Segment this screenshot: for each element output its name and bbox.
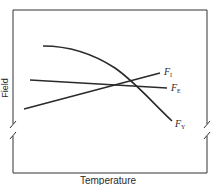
chart: FI FE FY Temperature Field bbox=[0, 0, 216, 185]
series-fe-label: FE bbox=[170, 82, 181, 94]
series-fi-line bbox=[24, 73, 160, 109]
x-axis-title: Temperature bbox=[80, 175, 137, 185]
series-fy-label: FY bbox=[174, 118, 186, 130]
series-fe-line bbox=[30, 80, 167, 88]
y-axis-title: Field bbox=[0, 78, 10, 98]
series-fi-label: FI bbox=[163, 66, 172, 78]
series-fy-curve bbox=[43, 46, 172, 121]
